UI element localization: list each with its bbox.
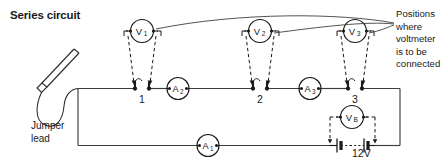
voltmeter-vb: V B — [336, 106, 368, 129]
ammeter-a1-label: A — [202, 141, 209, 151]
jumper-lead-probe — [37, 49, 79, 126]
voltmeter-v2-label: V — [254, 26, 261, 37]
ammeter-a3-label: A — [304, 84, 311, 94]
page-title: Series circuit — [10, 10, 80, 22]
circuit-schematic-drawing: V 1 V 2 V 3 A 2 — [0, 0, 444, 165]
voltmeter-v3: V 3 — [339, 20, 371, 43]
terminal-3-number: 3 — [352, 94, 358, 105]
voltmeter-v3-label: V — [349, 26, 356, 37]
callout-label: Positions where voltmeter is to be conne… — [396, 8, 440, 71]
voltmeter-lead-dashed-group — [128, 36, 369, 83]
voltmeter-v1-label: V — [136, 26, 143, 37]
terminal-pair-2 — [251, 79, 268, 91]
ammeter-a2-label: A — [172, 84, 179, 94]
voltmeter-vb-subscript: B — [354, 116, 359, 123]
voltmeter-lead-arrowheads — [132, 81, 366, 85]
voltmeter-v3-subscript: 3 — [357, 30, 361, 37]
ammeter-a1-subscript: 1 — [210, 145, 214, 152]
terminal-pair-1 — [133, 79, 150, 91]
circuit-diagram-figure: V 1 V 2 V 3 A 2 — [0, 0, 444, 165]
voltmeter-vb-lead-arrowheads — [328, 139, 378, 143]
jumper-lead-label: Jumper lead — [31, 120, 64, 145]
voltmeter-v1: V 1 — [126, 20, 158, 43]
terminal-2-number: 2 — [257, 94, 263, 105]
voltmeter-v1-subscript: 1 — [144, 30, 148, 37]
voltmeter-vb-label: V — [346, 112, 353, 123]
ammeter-a2: A 2 — [167, 78, 189, 100]
ammeter-a1: A 1 — [197, 135, 219, 157]
ammeter-a2-subscript: 2 — [180, 88, 184, 95]
terminal-1-number: 1 — [139, 94, 145, 105]
voltmeter-v2-subscript: 2 — [262, 30, 266, 37]
voltmeter-v2: V 2 — [244, 20, 276, 43]
ammeter-a3-subscript: 3 — [312, 88, 316, 95]
supply-voltage-label: 12V — [352, 148, 371, 159]
ammeter-a3: A 3 — [299, 78, 321, 100]
terminal-pair-3 — [346, 79, 363, 91]
